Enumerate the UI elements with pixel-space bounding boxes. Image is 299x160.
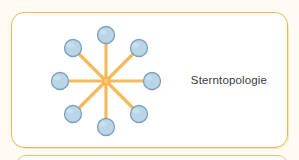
next-panel-partial [16, 155, 288, 160]
node-n [98, 27, 115, 44]
star-topology-diagram [12, 13, 182, 149]
topology-caption: Sterntopologie [174, 73, 284, 87]
node-nw [65, 40, 82, 57]
node-ne [131, 40, 148, 57]
page-root: Sterntopologie [0, 0, 299, 160]
node-s [98, 119, 115, 136]
node-sw [65, 106, 82, 123]
node-w [52, 73, 69, 90]
node-e [144, 73, 161, 90]
node-se [131, 106, 148, 123]
hub-node [101, 76, 110, 85]
topology-panel: Sterntopologie [11, 12, 288, 148]
star-topology-svg [12, 13, 182, 149]
